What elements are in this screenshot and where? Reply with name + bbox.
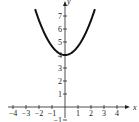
parabola-chart: −4−3−2−11234−11234567xy	[0, 0, 139, 122]
y-tick-label: −1	[53, 116, 62, 122]
x-tick-label: −2	[35, 109, 44, 118]
y-tick-label: 5	[58, 38, 62, 47]
x-tick-label: 1	[76, 109, 80, 118]
y-axis-label: y	[66, 0, 71, 6]
axes	[8, 1, 130, 120]
x-axis-arrow-icon	[125, 105, 130, 109]
y-tick-label: 1	[58, 90, 62, 99]
tick-labels: −4−3−2−11234−11234567xy	[9, 0, 137, 122]
x-tick-label: 3	[102, 109, 106, 118]
y-tick-label: 3	[58, 64, 62, 73]
x-tick-label: 2	[89, 109, 93, 118]
x-axis-label: x	[132, 103, 137, 112]
x-tick-label: −4	[9, 109, 18, 118]
y-tick-label: 2	[58, 77, 62, 86]
y-tick-label: 6	[58, 25, 62, 34]
x-tick-label: −3	[22, 109, 31, 118]
x-tick-label: 4	[115, 109, 119, 118]
y-tick-label: 7	[58, 12, 62, 21]
